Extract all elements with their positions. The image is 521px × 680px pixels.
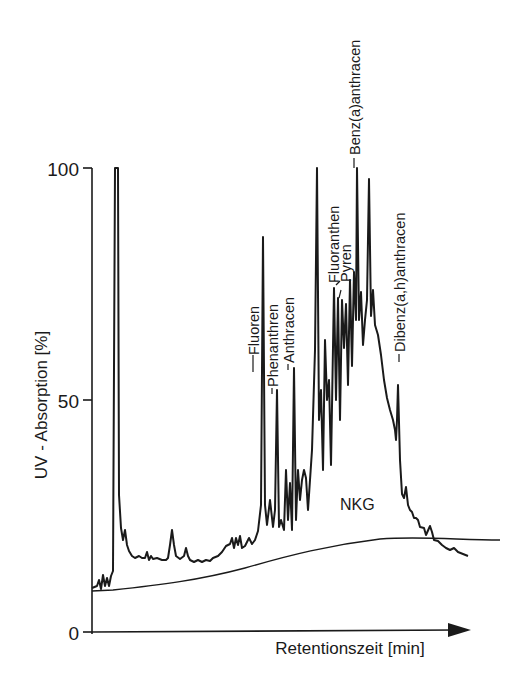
- chromatogram-chart: 100 50 0 UV - Absorption [%] Retentionsz…: [0, 0, 521, 680]
- y-tick-0: 0: [68, 623, 79, 644]
- y-axis: [83, 168, 92, 634]
- label-fluoren: Fluoren: [246, 306, 262, 355]
- y-tick-100: 100: [47, 159, 79, 180]
- label-dibenzanthracen: Dibenz(a,h)anthracen: [392, 213, 408, 352]
- label-pyren: Pyren: [338, 244, 354, 282]
- label-anthracen: Anthracen: [281, 297, 297, 363]
- label-benzanthracen: Benz(a)anthracen: [347, 40, 363, 155]
- y-axis-label: UV - Absorption [%]: [32, 331, 51, 479]
- label-phenanthren: Phenanthren: [265, 304, 281, 387]
- label-nkg: NKG: [340, 496, 375, 513]
- x-axis-arrow-icon: [448, 623, 471, 637]
- x-axis-label: Retentionszeit [min]: [275, 639, 424, 658]
- x-axis: [92, 623, 471, 637]
- y-tick-50: 50: [58, 391, 79, 412]
- nkg-baseline: [92, 538, 500, 591]
